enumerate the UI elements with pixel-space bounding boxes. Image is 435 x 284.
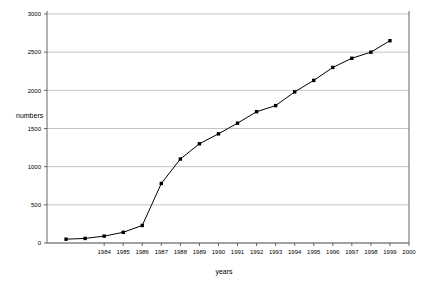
data-point-marker (255, 110, 258, 113)
x-tick-label: 1999 (383, 249, 397, 255)
y-tick-label: 1500 (28, 126, 42, 132)
x-tick-label: 1992 (250, 249, 264, 255)
x-tick-label: 1997 (345, 249, 359, 255)
data-point-marker (122, 231, 125, 234)
y-tick-label: 2500 (28, 49, 42, 55)
data-point-marker (83, 237, 86, 240)
x-tick-label: 2000 (402, 249, 416, 255)
data-point-marker (64, 237, 67, 240)
data-point-marker (217, 132, 220, 135)
data-point-marker (179, 157, 182, 160)
x-tick-label: 1994 (288, 249, 302, 255)
x-axis-tick-labels: 1984198519861987198819891990199119921993… (97, 249, 416, 255)
data-point-marker (312, 79, 315, 82)
data-point-marker (274, 104, 277, 107)
plot-background (0, 0, 435, 284)
y-tick-label: 3000 (28, 11, 42, 17)
x-tick-label: 1998 (364, 249, 378, 255)
data-point-marker (236, 121, 239, 124)
data-point-marker (293, 90, 296, 93)
x-tick-label: 1985 (117, 249, 131, 255)
data-point-marker (369, 50, 372, 53)
y-axis-title: numbers (16, 112, 44, 119)
chart-canvas: 050010001500200025003000 198419851986198… (0, 0, 435, 284)
data-point-marker (160, 182, 163, 185)
x-tick-label: 1988 (174, 249, 188, 255)
y-tick-label: 2000 (28, 88, 42, 94)
y-tick-label: 1000 (28, 164, 42, 170)
data-point-marker (102, 234, 105, 237)
data-point-marker (198, 142, 201, 145)
x-tick-label: 1990 (212, 249, 226, 255)
x-axis-title: years (215, 268, 233, 276)
x-tick-label: 1986 (136, 249, 150, 255)
x-tick-label: 1989 (193, 249, 207, 255)
x-tick-label: 1993 (269, 249, 283, 255)
x-tick-label: 1987 (155, 249, 169, 255)
y-tick-label: 500 (31, 202, 42, 208)
line-chart: 050010001500200025003000 198419851986198… (0, 0, 435, 284)
x-tick-label: 1991 (231, 249, 245, 255)
x-tick-label: 1996 (326, 249, 340, 255)
x-tick-label: 1995 (307, 249, 321, 255)
data-point-marker (331, 66, 334, 69)
data-point-marker (388, 39, 391, 42)
x-tick-label: 1984 (97, 249, 111, 255)
data-point-marker (141, 224, 144, 227)
data-point-marker (350, 57, 353, 60)
